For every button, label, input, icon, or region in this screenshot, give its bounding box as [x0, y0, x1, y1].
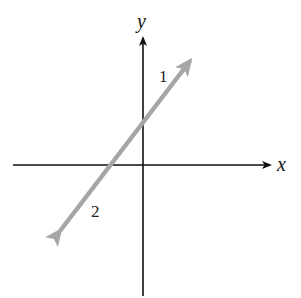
coordinate-plane: y x 1 2	[0, 0, 301, 298]
x-axis-label: x	[276, 153, 286, 175]
graph-line	[60, 61, 190, 231]
y-axis-label: y	[135, 10, 146, 33]
line-label-1: 1	[159, 67, 168, 86]
line-label-2: 2	[91, 202, 100, 221]
